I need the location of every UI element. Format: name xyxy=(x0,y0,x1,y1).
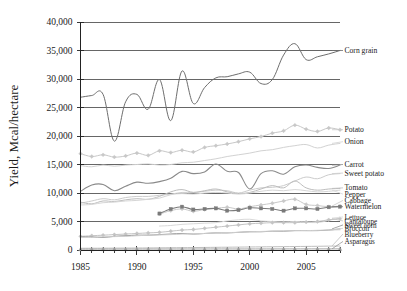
leader-line-carrot xyxy=(332,165,343,166)
y-tick-label: 25,000 xyxy=(46,103,72,113)
series-marker xyxy=(237,209,240,212)
x-tick-label: 1985 xyxy=(71,262,90,272)
series-marker xyxy=(282,209,285,212)
x-tick-label: 1995 xyxy=(184,262,203,272)
series-marker xyxy=(214,207,217,210)
legend-label-potato: Potato xyxy=(345,125,365,134)
leader-line-sweet-potato xyxy=(332,173,343,174)
series-marker xyxy=(293,207,296,210)
y-tick-label: 30,000 xyxy=(46,74,72,84)
series-marker xyxy=(327,206,330,209)
series-marker xyxy=(259,207,262,210)
legend-label-asparagus: Asparagus xyxy=(345,238,376,246)
x-tick-label: 1990 xyxy=(127,262,146,272)
series-marker xyxy=(271,207,274,210)
y-tick-label: 15,000 xyxy=(46,160,72,170)
y-axis-label: Yield, Mcal/hectare xyxy=(6,85,21,188)
series-marker xyxy=(305,207,308,210)
legend-label-watermelon: Watermelon xyxy=(345,202,382,211)
x-tick-label: 2005 xyxy=(297,262,316,272)
series-marker xyxy=(226,209,229,212)
legend-label-corn-grain: Corn grain xyxy=(345,46,378,55)
x-tick-label: 2000 xyxy=(240,262,259,272)
leader-line-tomato xyxy=(332,188,343,189)
y-tick-label: 20,000 xyxy=(46,131,72,141)
series-marker xyxy=(192,208,195,211)
chart-figure: 05,00010,00015,00020,00025,00030,00035,0… xyxy=(0,0,407,291)
legend-label-sweet-potato: Sweet potato xyxy=(345,169,385,178)
series-marker xyxy=(203,207,206,210)
series-marker xyxy=(158,212,161,215)
y-tick-label: 40,000 xyxy=(46,17,72,27)
series-marker xyxy=(169,207,172,210)
legend-label-onion: Onion xyxy=(345,137,364,146)
yield-line-chart: 05,00010,00015,00020,00025,00030,00035,0… xyxy=(0,0,407,291)
series-marker xyxy=(316,207,319,210)
y-tick-label: 10,000 xyxy=(46,188,72,198)
series-marker xyxy=(248,206,251,209)
y-tick-label: 0 xyxy=(68,245,73,255)
series-marker xyxy=(180,205,183,208)
y-tick-label: 35,000 xyxy=(46,46,72,56)
y-tick-label: 5,000 xyxy=(51,217,73,227)
